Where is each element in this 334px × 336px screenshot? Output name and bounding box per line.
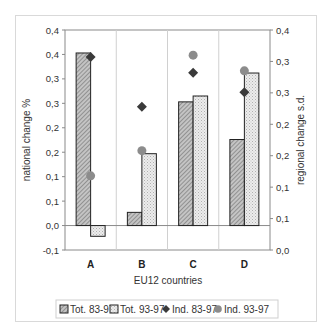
y-tick-label-left: 0,1 xyxy=(46,171,59,182)
y-tick-label-right: 0,3 xyxy=(276,56,289,67)
y-tick-label-right: 0,3 xyxy=(276,87,289,98)
y-tick-label-left: 0,4 xyxy=(46,25,59,36)
y-tick-label-left: 0,3 xyxy=(46,98,59,109)
y-tick-label-left: 0,0 xyxy=(46,220,59,231)
category-label: B xyxy=(138,259,145,270)
bar-tot-93-97 xyxy=(244,73,259,226)
y-axis-title-left: national change % xyxy=(21,99,32,181)
y-axis-title-right: regional change s.d. xyxy=(295,95,306,185)
bar-tot-83-97 xyxy=(179,102,194,226)
bar-tot-93-97 xyxy=(91,226,106,237)
y-tick-label-right: 0,1 xyxy=(276,213,289,224)
marker-ind-93-97 xyxy=(240,66,249,75)
y-tick-label-right: 0,2 xyxy=(276,119,289,130)
legend: Tot. 83-97Tot. 93-97Ind. 83-97Ind. 93-97 xyxy=(56,300,278,318)
y-tick-label-left: 0,2 xyxy=(46,122,59,133)
y-tick-label-left: 0,3 xyxy=(46,73,59,84)
bar-tot-83-97 xyxy=(76,53,91,226)
bar-tot-83-97 xyxy=(127,212,142,225)
y-tick-label-left: -0,1 xyxy=(43,245,59,256)
bar-tot-83-97 xyxy=(230,140,245,226)
category-label: D xyxy=(241,259,248,270)
y-tick-label-left: 0,1 xyxy=(46,196,59,207)
y-tick-label-right: 0,2 xyxy=(276,150,289,161)
legend-circle-icon xyxy=(214,305,222,313)
category-label: A xyxy=(87,259,94,270)
marker-ind-93-97 xyxy=(189,51,198,60)
bar-tot-93-97 xyxy=(193,96,208,226)
marker-ind-93-97 xyxy=(137,146,146,155)
combo-chart: -0,10,00,10,10,20,20,30,30,40,40,00,10,1… xyxy=(0,0,334,336)
legend-label: Ind. 93-97 xyxy=(224,304,269,315)
legend-hatched-square-icon xyxy=(60,305,68,313)
legend-label: Tot. 83-97 xyxy=(70,304,115,315)
y-tick-label-right: 0,4 xyxy=(276,25,289,36)
y-tick-label-right: 0,1 xyxy=(276,182,289,193)
x-axis-title: EU12 countries xyxy=(134,275,202,286)
y-tick-label-right: 0,0 xyxy=(276,245,289,256)
marker-ind-93-97 xyxy=(86,171,95,180)
category-label: C xyxy=(190,259,197,270)
y-tick-label-left: 0,4 xyxy=(46,49,59,60)
legend-label: Ind. 83-97 xyxy=(172,304,217,315)
bar-tot-93-97 xyxy=(142,154,157,226)
y-tick-label-left: 0,2 xyxy=(46,147,59,158)
legend-label: Tot. 93-97 xyxy=(120,304,165,315)
legend-light-square-icon xyxy=(110,305,118,313)
